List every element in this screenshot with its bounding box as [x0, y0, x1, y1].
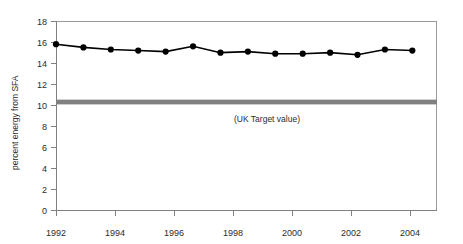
- x-tick-label-1994: 1994: [105, 228, 125, 238]
- y-axis-title: percent energy from SFA: [10, 75, 20, 170]
- data-point-marker: [190, 43, 196, 49]
- x-tick-label-1992: 1992: [46, 228, 66, 238]
- uk-target-band-rect: [56, 100, 437, 105]
- chart-figure: 18 16 14 12 10 8 6 4 2 0 1992 1994 1996 …: [0, 0, 463, 244]
- y-tick-label-6: 6: [42, 143, 47, 153]
- uk-target-value-label: (UK Target value): [234, 114, 300, 124]
- uk-target-band: [56, 100, 437, 105]
- x-axis-tick-labels: 1992 1994 1996 1998 2000 2002 2004: [46, 228, 420, 238]
- data-point-marker: [80, 44, 86, 50]
- x-tick-label-1996: 1996: [164, 228, 184, 238]
- data-point-marker: [135, 47, 141, 53]
- data-point-marker: [272, 51, 278, 57]
- y-tick-label-10: 10: [37, 101, 47, 111]
- data-point-marker: [409, 47, 415, 53]
- y-tick-label-12: 12: [37, 80, 47, 90]
- data-point-marker: [53, 41, 59, 47]
- y-axis-tick-labels: 18 16 14 12 10 8 6 4 2 0: [37, 17, 47, 216]
- y-axis-ticks: [51, 22, 56, 211]
- y-tick-label-4: 4: [42, 164, 47, 174]
- data-point-marker: [217, 50, 223, 56]
- y-tick-label-0: 0: [42, 206, 47, 216]
- x-tick-label-1998: 1998: [223, 228, 243, 238]
- y-tick-label-14: 14: [37, 59, 47, 69]
- y-tick-label-2: 2: [42, 185, 47, 195]
- y-tick-label-18: 18: [37, 17, 47, 27]
- y-tick-label-8: 8: [42, 122, 47, 132]
- data-point-marker: [382, 46, 388, 52]
- data-point-marker: [300, 51, 306, 57]
- data-point-marker: [354, 52, 360, 58]
- x-axis-ticks: [57, 211, 411, 216]
- data-point-marker: [245, 49, 251, 55]
- data-point-marker: [163, 49, 169, 55]
- data-point-marker: [327, 50, 333, 56]
- x-tick-label-2000: 2000: [282, 228, 302, 238]
- y-tick-label-16: 16: [37, 38, 47, 48]
- x-tick-label-2004: 2004: [400, 228, 420, 238]
- x-tick-label-2002: 2002: [341, 228, 361, 238]
- data-point-marker: [108, 46, 114, 52]
- sfa-trend-line-chart: 18 16 14 12 10 8 6 4 2 0 1992 1994 1996 …: [0, 0, 463, 244]
